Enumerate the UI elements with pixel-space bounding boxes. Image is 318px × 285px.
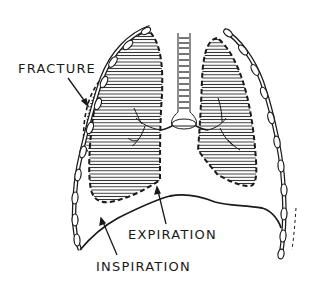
expiration-arrow — [155, 187, 166, 224]
fracture-arrow — [68, 78, 88, 106]
inspiration-label: INSPIRATION — [96, 260, 191, 273]
right-rib-dash-mark — [292, 208, 296, 250]
right-lung — [195, 30, 265, 195]
chest-diagram — [0, 0, 318, 285]
expiration-label: EXPIRATION — [128, 228, 217, 241]
fracture-label: FRACTURE — [18, 62, 96, 75]
